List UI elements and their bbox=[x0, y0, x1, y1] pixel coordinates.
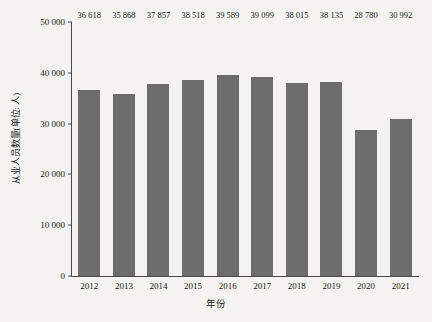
y-axis-title: 从业人员数量(单位: 人) bbox=[6, 0, 26, 276]
x-axis-tick-label: 2014 bbox=[149, 281, 167, 291]
x-axis-line bbox=[71, 276, 419, 277]
plot-area: 010 00020 00030 00040 00050 000 36 61820… bbox=[72, 22, 418, 276]
bar-value-label: 38 015 bbox=[285, 10, 308, 20]
bar-group: 38 0152018 bbox=[280, 22, 315, 276]
bar-chart-figure: 从业人员数量(单位: 人) 010 00020 00030 00040 0005… bbox=[0, 0, 432, 322]
x-axis-tick-label: 2019 bbox=[322, 281, 340, 291]
bar-group: 30 9922021 bbox=[383, 22, 418, 276]
bar-value-label: 38 135 bbox=[320, 10, 343, 20]
x-axis-tick-label: 2012 bbox=[80, 281, 98, 291]
bar-group: 35 8682013 bbox=[107, 22, 142, 276]
x-axis-title: 年份 bbox=[0, 296, 432, 310]
bar-value-label: 30 992 bbox=[389, 10, 412, 20]
x-axis-tick-label: 2015 bbox=[184, 281, 202, 291]
bar-value-label: 37 857 bbox=[147, 10, 170, 20]
bar-group: 38 1352019 bbox=[314, 22, 349, 276]
bar: 38 015 bbox=[286, 83, 308, 276]
bar-value-label: 39 099 bbox=[251, 10, 274, 20]
bar-value-label: 35 868 bbox=[112, 10, 135, 20]
bar-value-label: 38 518 bbox=[181, 10, 204, 20]
bar-value-label: 36 618 bbox=[78, 10, 101, 20]
x-axis-tick-label: 2013 bbox=[115, 281, 133, 291]
x-axis-tick-label: 2020 bbox=[357, 281, 375, 291]
bar-series: 36 618201235 868201337 857201438 5182015… bbox=[72, 22, 418, 276]
bar: 28 780 bbox=[355, 130, 377, 276]
bar: 39 099 bbox=[251, 77, 273, 276]
bar: 30 992 bbox=[390, 119, 412, 276]
x-axis-tick-label: 2016 bbox=[219, 281, 237, 291]
bar-group: 39 5892016 bbox=[210, 22, 245, 276]
bar: 38 135 bbox=[320, 82, 342, 276]
x-axis-tick-label: 2018 bbox=[288, 281, 306, 291]
bar: 35 868 bbox=[113, 94, 135, 276]
bar: 39 589 bbox=[217, 75, 239, 276]
bar-group: 39 0992017 bbox=[245, 22, 280, 276]
bar-group: 36 6182012 bbox=[72, 22, 107, 276]
bar: 38 518 bbox=[182, 80, 204, 276]
bar-value-label: 28 780 bbox=[354, 10, 377, 20]
y-axis-title-text: 从业人员数量(单位: 人) bbox=[10, 92, 23, 184]
bar-group: 38 5182015 bbox=[176, 22, 211, 276]
x-axis-tick-label: 2021 bbox=[392, 281, 410, 291]
bar: 36 618 bbox=[78, 90, 100, 276]
bar-group: 28 7802020 bbox=[349, 22, 384, 276]
bar-value-label: 39 589 bbox=[216, 10, 239, 20]
x-axis-tick-label: 2017 bbox=[253, 281, 271, 291]
bar: 37 857 bbox=[147, 84, 169, 276]
bar-group: 37 8572014 bbox=[141, 22, 176, 276]
